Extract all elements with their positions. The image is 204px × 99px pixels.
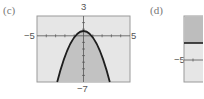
- panel-d-shaded-region: [185, 17, 204, 44]
- graphs-canvas: [0, 0, 203, 99]
- panel-d-plot: [184, 16, 203, 82]
- panel-c-plot: [37, 16, 130, 82]
